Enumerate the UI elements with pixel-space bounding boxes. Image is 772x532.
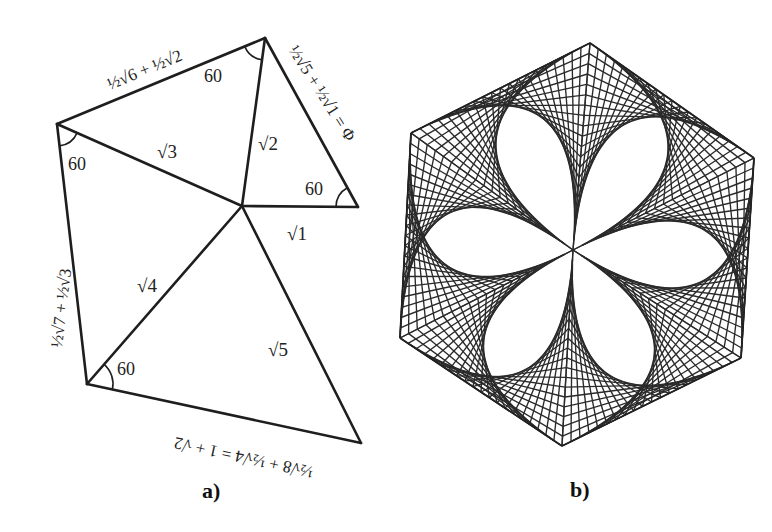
figure-b-curve-stitching: b) (0, 0, 772, 532)
caption-b: b) (570, 477, 590, 502)
stitch-lines (400, 43, 754, 446)
stitch-line (410, 143, 565, 244)
figure-stage: 60 60 60 60 √3 √2 √1 √4 √5 ½√6 + ½√2 ½√5… (0, 0, 772, 532)
stitch-line (427, 52, 572, 145)
stitch-line (419, 48, 581, 139)
stitch-line (573, 43, 590, 250)
stitch-line (572, 270, 580, 438)
